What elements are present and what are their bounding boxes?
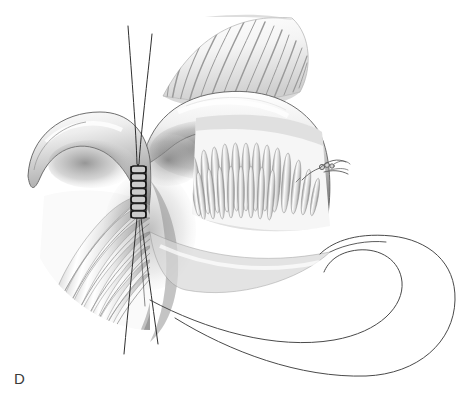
mucosal-folds-interior xyxy=(186,108,336,240)
panel-label: D xyxy=(14,371,25,386)
surgical-illustration-figure: D xyxy=(0,0,473,414)
suture-line xyxy=(131,164,146,218)
illustration-canvas xyxy=(0,0,473,414)
